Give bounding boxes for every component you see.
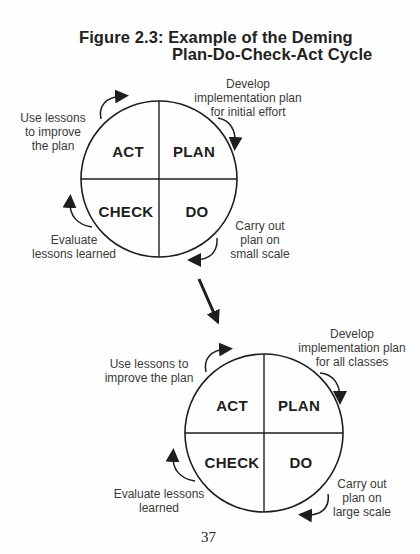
cycle-1-quadrant-act: ACT xyxy=(112,143,144,160)
cycle-2-arrow-plan-to-do xyxy=(320,373,340,398)
cycle-2-quadrant-act: ACT xyxy=(216,397,248,414)
cycle-1-note-check: Evaluate lessons learned xyxy=(28,233,120,261)
cycle-1-quadrant-do: DO xyxy=(185,203,208,220)
document-page: Figure 2.3: Example of the Deming Plan-D… xyxy=(0,0,420,554)
cycle-2-note-do: Carry out plan on large scale xyxy=(326,477,398,519)
page-number: 37 xyxy=(201,529,216,546)
cycle-2-note-plan: Develop implementation plan for all clas… xyxy=(292,327,412,369)
cycle-2-arrow-do-to-check xyxy=(305,494,328,515)
cycle-2-quadrant-plan: PLAN xyxy=(278,397,320,414)
cycle-2-quadrant-check: CHECK xyxy=(205,454,260,471)
cycle-1-note-act: Use lessons to improve the plan xyxy=(17,111,89,153)
cycle-1-note-do: Carry out plan on small scale xyxy=(225,219,295,261)
cycle-1-quadrant-plan: PLAN xyxy=(173,143,215,160)
cycle-1-note-plan: Develop implementation plan for initial … xyxy=(190,77,306,119)
cycle-1-quadrant-check: CHECK xyxy=(99,203,154,220)
cycle-2-note-check: Evaluate lessons learned xyxy=(104,487,214,515)
transition-arrow-icon xyxy=(199,279,216,318)
cycle-2-arrow-act-to-plan xyxy=(205,349,226,372)
cycle-2-quadrant-do: DO xyxy=(289,454,312,471)
cycle-2-arrow-check-to-act xyxy=(173,455,195,481)
cycle-2-note-act: Use lessons to improve the plan xyxy=(90,357,208,385)
cycle-1-arrow-act-to-plan xyxy=(100,96,122,119)
